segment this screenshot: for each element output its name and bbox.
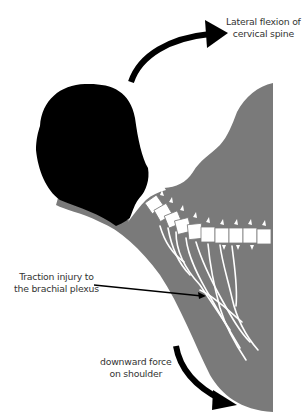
label-downward-force-line2: on shoulder [100,368,172,380]
label-lateral-flexion: Lateral flexion of cervical spine [226,16,301,40]
label-traction-injury-line2: the brachial plexus [14,283,99,295]
label-traction-injury-line1: Traction injury to [14,271,99,283]
label-lateral-flexion-line1: Lateral flexion of [226,16,301,28]
label-downward-force-line1: downward force [100,356,172,368]
label-downward-force: downward force on shoulder [100,356,172,380]
label-traction-injury: Traction injury to the brachial plexus [14,271,99,295]
label-lateral-flexion-line2: cervical spine [226,28,301,40]
curved-arrow-lateral-flexion [131,20,228,82]
head-silhouette [36,84,149,226]
